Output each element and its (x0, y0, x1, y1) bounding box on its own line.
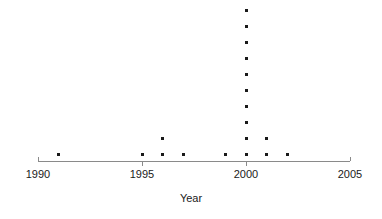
data-point (265, 153, 268, 156)
data-point (245, 73, 248, 76)
data-point (245, 41, 248, 44)
data-point (141, 153, 144, 156)
data-point (245, 153, 248, 156)
data-point (245, 121, 248, 124)
x-axis-tick (246, 162, 247, 166)
data-point (286, 153, 289, 156)
dot-plot-chart: 1990199520002005 Year (0, 0, 382, 219)
data-point (224, 153, 227, 156)
x-axis-end-cap (350, 157, 351, 161)
data-point (245, 89, 248, 92)
data-point (245, 105, 248, 108)
data-point (265, 137, 268, 140)
x-axis-line (38, 161, 350, 162)
data-point (245, 137, 248, 140)
x-axis-end-cap (38, 157, 39, 161)
data-point (245, 25, 248, 28)
x-axis-tick-label: 2005 (320, 168, 380, 181)
data-point (245, 9, 248, 12)
x-axis-tick-label: 1995 (112, 168, 172, 181)
data-point (182, 153, 185, 156)
data-point (161, 137, 164, 140)
plot-area (0, 0, 382, 219)
x-axis-title: Year (0, 191, 382, 205)
x-axis-tick (142, 162, 143, 166)
data-point (161, 153, 164, 156)
data-point (245, 57, 248, 60)
x-axis-tick-label: 1990 (8, 168, 68, 181)
data-point (57, 153, 60, 156)
x-axis-tick-label: 2000 (216, 168, 276, 181)
